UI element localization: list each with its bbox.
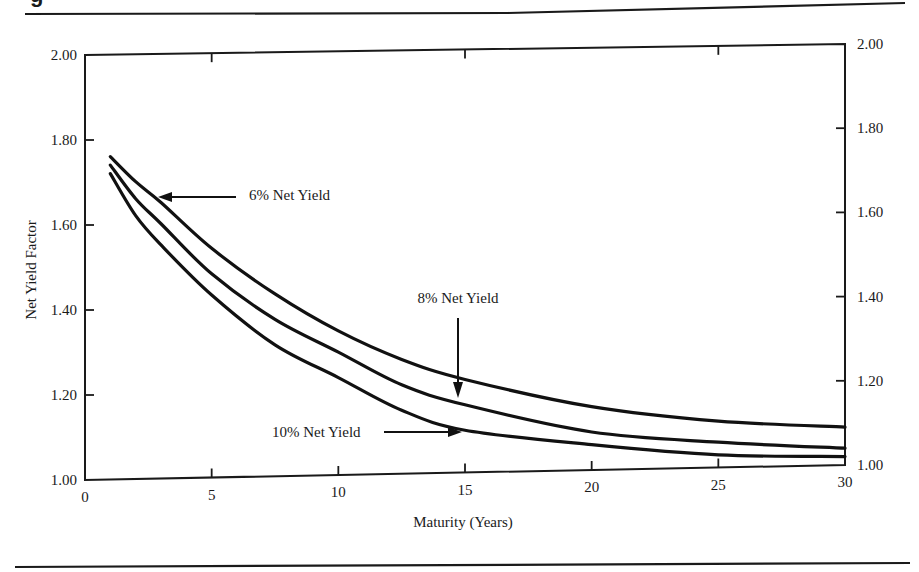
x-tick-label: 10 — [331, 484, 346, 500]
y-tick-label-right: 2.00 — [857, 36, 883, 52]
annotation-10-percent: 10% Net Yield — [272, 424, 361, 440]
x-tick-label: 20 — [584, 479, 599, 495]
y-axis-title: Net Yield Factor — [23, 220, 39, 319]
annotation-6-percent: 6% Net Yield — [249, 187, 331, 203]
top-rule — [25, 13, 508, 14]
y-tick-label-left: 1.80 — [51, 132, 77, 148]
plot-area: 0510152025301.001.001.201.201.401.401.60… — [51, 36, 884, 505]
bottom-rule — [15, 563, 910, 567]
y-tick-label-left: 2.00 — [51, 47, 77, 63]
x-tick-label: 0 — [81, 489, 89, 505]
y-tick-label-left: 1.00 — [51, 472, 77, 488]
x-tick-label: 25 — [711, 477, 726, 493]
curve-8-percent — [110, 165, 845, 448]
x-tick-label: 5 — [208, 487, 216, 503]
y-tick-label-right: 1.80 — [857, 120, 883, 136]
x-axis-title: Maturity (Years) — [413, 514, 513, 531]
y-tick-label-left: 1.40 — [51, 302, 77, 318]
y-tick-label-right: 1.60 — [857, 204, 883, 220]
net-yield-chart: g 0510152025301.001.001.201.201.401.401.… — [0, 0, 919, 572]
y-tick-label-left: 1.60 — [51, 217, 77, 233]
y-tick-label-left: 1.20 — [51, 387, 77, 403]
figure: g 0510152025301.001.001.201.201.401.401.… — [0, 0, 919, 572]
top-rule-right — [508, 3, 905, 13]
arrow-head-8-percent — [453, 382, 463, 398]
y-tick-label-right: 1.20 — [857, 373, 883, 389]
y-tick-label-right: 1.00 — [857, 457, 883, 473]
curve-10-percent — [110, 174, 845, 457]
y-tick-label-right: 1.40 — [857, 289, 883, 305]
x-tick-label: 30 — [838, 474, 853, 490]
x-tick-label: 15 — [458, 482, 473, 498]
annotation-8-percent: 8% Net Yield — [417, 290, 499, 306]
figure-header-fragment: g — [30, 0, 43, 7]
